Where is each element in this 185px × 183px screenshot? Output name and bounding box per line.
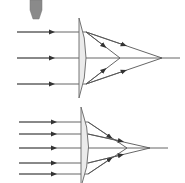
top-panel: [17, 18, 180, 98]
diagram-stage: [0, 0, 185, 183]
optics-diagram: [0, 0, 185, 183]
incoming-rays-bottom: [19, 122, 168, 174]
incoming-rays-top: [17, 32, 180, 84]
lens-top: [79, 18, 86, 98]
bottom-panel: [19, 107, 168, 183]
pointer-icon: [30, 0, 42, 19]
lens-bottom: [81, 107, 89, 183]
